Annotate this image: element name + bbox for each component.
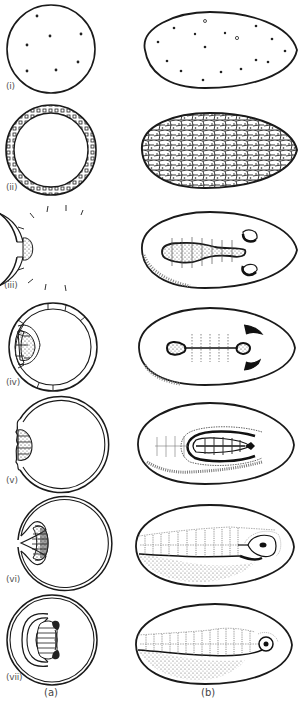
stage-label-vi: (vi) <box>6 574 20 584</box>
stage-ii-surface <box>142 113 297 188</box>
stage-label-i: (i) <box>6 81 15 91</box>
stage-label-iii: (iii) <box>4 280 18 290</box>
stage-label-vii: (vii) <box>6 672 22 682</box>
stage-iv-section <box>9 303 97 391</box>
stage-vi-section <box>18 497 112 591</box>
stage-label-iv: (iv) <box>6 377 20 387</box>
embryo-development-diagram <box>0 0 298 702</box>
stage-i-section <box>7 5 95 93</box>
stage-i-surface <box>145 12 297 88</box>
column-label-b: (b) <box>201 687 215 698</box>
stage-iii-surface <box>142 212 297 288</box>
stage-vii-surface <box>136 604 292 684</box>
stage-vi-surface <box>136 505 294 586</box>
stage-label-v: (v) <box>6 475 18 485</box>
stage-label-ii: (ii) <box>6 182 17 192</box>
stage-ii-section <box>6 105 96 195</box>
column-label-a: (a) <box>44 687 58 698</box>
stage-v-section <box>16 397 109 493</box>
stage-iv-surface <box>139 308 295 385</box>
stage-v-surface <box>138 403 294 484</box>
